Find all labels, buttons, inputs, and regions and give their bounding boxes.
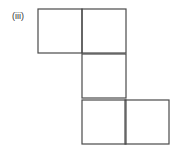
net-square-r2-c1 [82,100,126,144]
net-square-r2-c2 [125,100,169,144]
net-square-r0-c0 [38,9,82,53]
net-square-r1-c1 [82,54,126,98]
cube-net-diagram [0,0,190,149]
net-square-r0-c1 [82,9,126,53]
